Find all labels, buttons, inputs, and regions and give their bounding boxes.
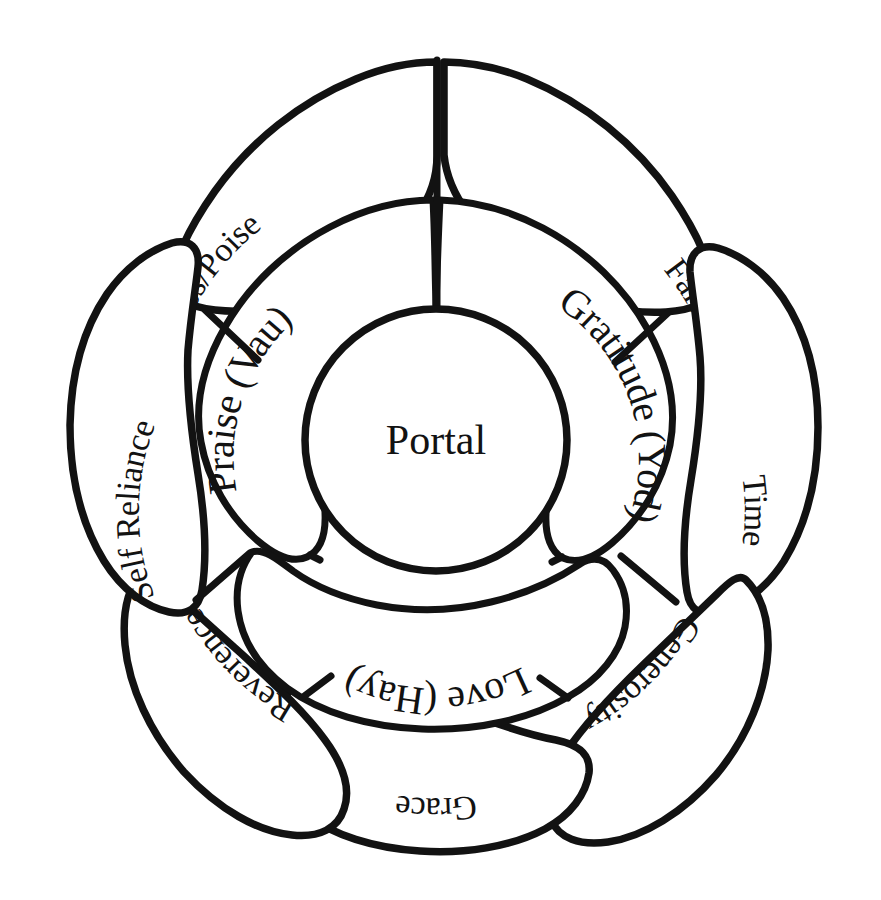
portal-flower-diagram: Calmness/Poise Failure Time Generosity xyxy=(0,0,881,900)
divider-inner-left-join xyxy=(310,555,320,560)
outer-petal-self-reliance[interactable]: Self Reliance xyxy=(70,242,205,613)
core-label: Portal xyxy=(386,417,486,463)
outer-petal-label-time: Time xyxy=(736,473,776,548)
diagram-canvas: Calmness/Poise Failure Time Generosity xyxy=(0,0,881,900)
divider-inner-right-join xyxy=(552,557,562,562)
divider-lower-right xyxy=(621,556,676,602)
outer-petal-label-grace: Grace xyxy=(393,789,479,829)
outer-petal-time[interactable]: Time xyxy=(684,247,818,614)
